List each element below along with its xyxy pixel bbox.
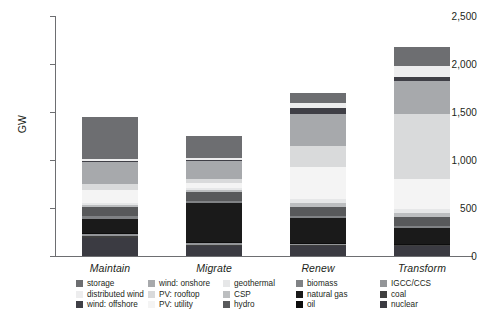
- legend-label: oil: [307, 300, 315, 309]
- legend-label: coal: [391, 290, 406, 299]
- bar-segment: [186, 161, 242, 180]
- legend-label: geothermal: [234, 279, 275, 288]
- bar-segment: [82, 207, 138, 216]
- bar-migrate: [186, 136, 242, 256]
- legend-label: PV: utility: [159, 300, 193, 309]
- legend-label: CSP: [234, 290, 251, 299]
- bar-segment: [290, 218, 346, 243]
- legend-label: nuclear: [391, 300, 418, 309]
- bar-segment: [82, 190, 138, 203]
- legend-label: biomass: [307, 279, 338, 288]
- bar-maintain: [82, 117, 138, 256]
- legend-swatch-icon: [380, 280, 387, 287]
- bar-segment: [394, 81, 450, 115]
- legend-item-distributed-wind[interactable]: distributed wind: [76, 289, 148, 298]
- bar-segment: [186, 246, 242, 256]
- legend-item-pv-utility[interactable]: PV: utility: [148, 300, 223, 309]
- bar-segment: [394, 246, 450, 256]
- y-axis: [0, 0, 52, 312]
- bar-segment: [82, 219, 138, 233]
- legend-swatch-icon: [380, 291, 387, 298]
- bar-segment: [290, 93, 346, 103]
- bar-segment: [82, 238, 138, 256]
- legend-item-geothermal[interactable]: geothermal: [223, 279, 296, 288]
- stacked-bar-chart: GW 05001,0001,5002,0002,500 MaintainMigr…: [0, 0, 477, 312]
- plot-area: [56, 16, 473, 256]
- bar-segment: [290, 114, 346, 147]
- legend-item-wind-offshore[interactable]: wind: offshore: [76, 300, 148, 309]
- bar-segment: [290, 207, 346, 216]
- bar-segment: [394, 66, 450, 77]
- legend-column: geothermalCSPhydro: [223, 279, 296, 311]
- legend-label: wind: onshore: [159, 279, 210, 288]
- legend-swatch-icon: [380, 301, 387, 308]
- bar-segment: [186, 203, 242, 242]
- bar-segment: [82, 117, 138, 159]
- bar-transform: [394, 47, 450, 256]
- x-tick-label-maintain: Maintain: [55, 262, 165, 274]
- x-tick-label-renew: Renew: [263, 262, 373, 274]
- legend-label: wind: offshore: [87, 300, 138, 309]
- legend-item-igcc-ccs[interactable]: IGCC/CCS: [380, 279, 460, 288]
- legend-column: storagedistributed windwind: offshore: [76, 279, 148, 311]
- bar-segment: [394, 179, 450, 210]
- legend-swatch-icon: [223, 301, 230, 308]
- x-tick-label-transform: Transform: [367, 262, 477, 274]
- legend-label: IGCC/CCS: [391, 279, 431, 288]
- legend-item-hydro[interactable]: hydro: [223, 300, 296, 309]
- y-tick-mark: [50, 256, 56, 257]
- legend-swatch-icon: [148, 280, 155, 287]
- legend-swatch-icon: [76, 301, 83, 308]
- legend-item-csp[interactable]: CSP: [223, 289, 296, 298]
- legend-item-storage[interactable]: storage: [76, 279, 148, 288]
- legend-column: biomassnatural gasoil: [296, 279, 380, 311]
- legend-swatch-icon: [223, 291, 230, 298]
- bar-segment: [290, 167, 346, 199]
- bar-segment: [82, 162, 138, 185]
- y-axis-title: GW: [16, 94, 28, 154]
- legend-label: natural gas: [307, 290, 348, 299]
- bar-segment: [186, 192, 242, 201]
- bar-segment: [394, 228, 450, 244]
- legend-label: hydro: [234, 300, 254, 309]
- legend-swatch-icon: [148, 301, 155, 308]
- legend-swatch-icon: [296, 301, 303, 308]
- legend-column: IGCC/CCScoalnuclear: [380, 279, 460, 311]
- legend-swatch-icon: [296, 280, 303, 287]
- legend-item-nuclear[interactable]: nuclear: [380, 300, 460, 309]
- legend-swatch-icon: [296, 291, 303, 298]
- legend-swatch-icon: [148, 291, 155, 298]
- bar-segment: [290, 146, 346, 167]
- legend-swatch-icon: [223, 280, 230, 287]
- legend-item-wind-onshore[interactable]: wind: onshore: [148, 279, 223, 288]
- bar-segment: [394, 114, 450, 178]
- legend-item-oil[interactable]: oil: [296, 300, 380, 309]
- bar-segment: [394, 217, 450, 226]
- legend-label: PV: rooftop: [159, 290, 200, 299]
- legend-item-coal[interactable]: coal: [380, 289, 460, 298]
- legend-label: storage: [87, 279, 114, 288]
- bar-renew: [290, 93, 346, 256]
- legend-column: wind: onshorePV: rooftopPV: utility: [148, 279, 223, 311]
- bar-segment: [394, 47, 450, 66]
- x-tick-label-migrate: Migrate: [159, 262, 269, 274]
- legend-item-pv-rooftop[interactable]: PV: rooftop: [148, 289, 223, 298]
- legend-item-biomass[interactable]: biomass: [296, 279, 380, 288]
- legend-swatch-icon: [76, 280, 83, 287]
- bar-segment: [290, 246, 346, 256]
- chart-legend: storagedistributed windwind: offshorewin…: [76, 279, 476, 311]
- legend-item-natural-gas[interactable]: natural gas: [296, 289, 380, 298]
- bar-segment: [186, 136, 242, 158]
- legend-swatch-icon: [76, 291, 83, 298]
- legend-label: distributed wind: [87, 290, 144, 299]
